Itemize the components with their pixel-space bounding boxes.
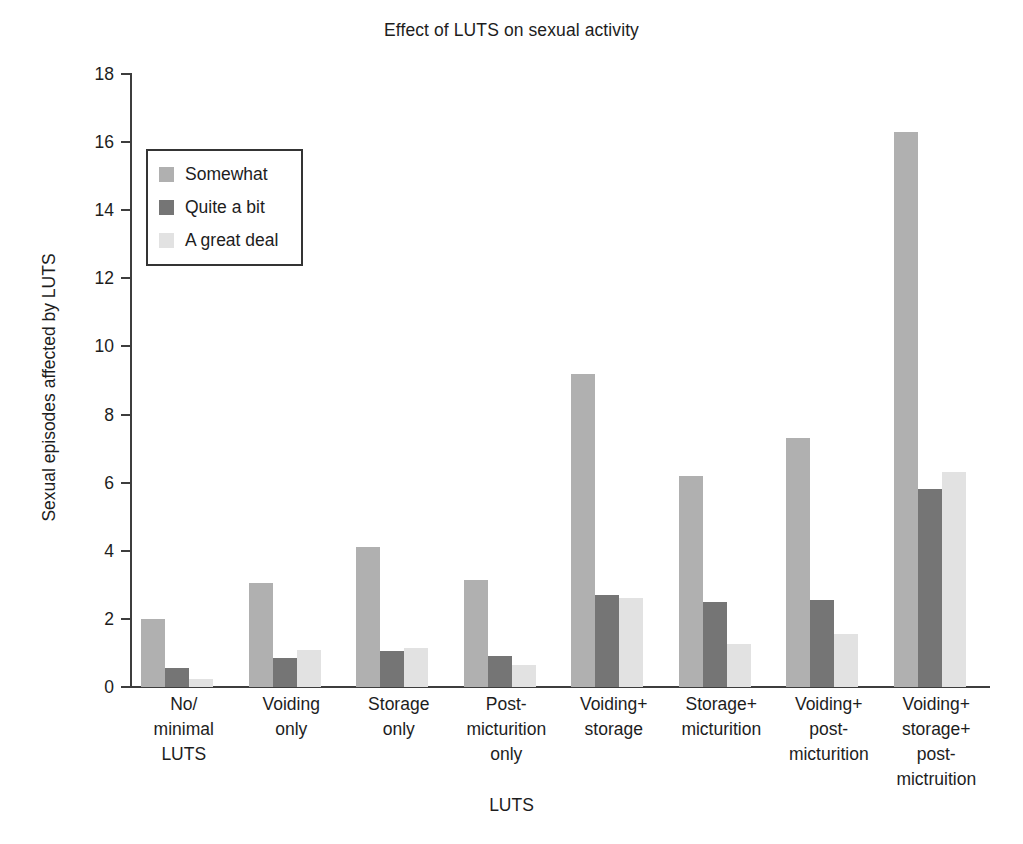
y-axis-tick-label: 2 [104, 608, 114, 629]
x-axis-tick-label-line: Voiding+ [767, 692, 891, 717]
x-axis-tick-label-line: Voiding [230, 692, 354, 717]
bar-group [894, 74, 966, 687]
x-axis-tick-label-line: only [445, 742, 569, 767]
bar [380, 651, 404, 687]
legend-item-label: Quite a bit [185, 197, 265, 218]
y-axis-tick: 6 [121, 482, 130, 484]
legend-swatch-icon [159, 200, 174, 215]
y-axis-tick-label: 4 [104, 540, 114, 561]
x-axis-tick-label: Storageonly [337, 692, 461, 742]
x-axis-tick-label: Voiding+storage+post-mictruition [875, 692, 999, 792]
bar [273, 658, 297, 687]
bar [619, 598, 643, 687]
bar-group [356, 74, 428, 687]
bar-group [679, 74, 751, 687]
bar [356, 547, 380, 687]
bar [679, 476, 703, 687]
legend-item-label: Somewhat [185, 164, 268, 185]
x-axis-tick-label-line: post- [767, 717, 891, 742]
y-axis-tick: 8 [121, 414, 130, 416]
bar-group [786, 74, 858, 687]
x-axis-tick-label: Post-micturitiononly [445, 692, 569, 767]
x-axis-tick-label: Voidingonly [230, 692, 354, 742]
x-axis-tick-label-line: only [230, 717, 354, 742]
bar [918, 489, 942, 687]
x-axis-tick-label-line: minimal [122, 717, 246, 742]
y-axis-tick: 16 [121, 141, 130, 143]
x-axis-tick-label-line: No/ [122, 692, 246, 717]
y-axis-tick-label: 10 [95, 336, 114, 357]
x-axis-tick-label-line: micturition [660, 717, 784, 742]
x-axis-title: LUTS [0, 795, 1023, 816]
bar [297, 650, 321, 687]
x-axis-tick-label-line: micturition [767, 742, 891, 767]
bar [786, 438, 810, 687]
x-axis-tick-label-line: storage [552, 717, 676, 742]
x-axis-tick-label: Voiding+storage [552, 692, 676, 742]
y-axis-tick-label: 6 [104, 472, 114, 493]
bar [571, 374, 595, 687]
y-axis-tick: 14 [121, 209, 130, 211]
bar [464, 580, 488, 687]
legend-item-label: A great deal [185, 230, 278, 251]
legend-swatch-icon [159, 233, 174, 248]
y-axis-tick: 2 [121, 618, 130, 620]
bar [249, 583, 273, 687]
y-axis-title: Sexual episodes affected by LUTS [39, 78, 60, 698]
x-axis-tick-label-line: micturition [445, 717, 569, 742]
bar [488, 656, 512, 687]
y-axis-line [130, 73, 132, 688]
bar [141, 619, 165, 687]
legend: SomewhatQuite a bitA great deal [146, 149, 303, 266]
x-axis-tick-label-line: mictruition [875, 767, 999, 792]
legend-item[interactable]: Somewhat [159, 163, 268, 185]
x-axis-tick-label-line: Storage [337, 692, 461, 717]
x-axis-tick-label-line: post- [875, 742, 999, 767]
x-axis-tick-label: No/minimalLUTS [122, 692, 246, 767]
y-axis-tick-label: 8 [104, 404, 114, 425]
chart-page: Effect of LUTS on sexual activity Sexual… [0, 0, 1023, 844]
x-axis-tick-label-line: Storage+ [660, 692, 784, 717]
legend-item[interactable]: A great deal [159, 229, 278, 251]
bar-group [571, 74, 643, 687]
x-axis-tick-label: Voiding+post-micturition [767, 692, 891, 767]
bar [189, 679, 213, 688]
x-axis-tick-label-line: LUTS [122, 742, 246, 767]
y-axis-tick: 4 [121, 550, 130, 552]
x-axis-tick-label-line: Post- [445, 692, 569, 717]
y-axis-tick-label: 18 [95, 64, 114, 85]
x-axis-tick-label-line: storage+ [875, 717, 999, 742]
y-axis-tick: 18 [121, 73, 130, 75]
y-axis-tick-label: 0 [104, 677, 114, 698]
bar [834, 634, 858, 687]
y-axis-tick-label: 12 [95, 268, 114, 289]
x-axis-tick-label-line: Voiding+ [875, 692, 999, 717]
legend-item[interactable]: Quite a bit [159, 196, 265, 218]
bar [942, 472, 966, 687]
bar [810, 600, 834, 687]
bar [727, 644, 751, 687]
x-axis-tick-label-line: only [337, 717, 461, 742]
bar [512, 665, 536, 687]
bar [404, 648, 428, 687]
y-axis-tick: 12 [121, 277, 130, 279]
y-axis-tick-label: 16 [95, 132, 114, 153]
y-axis-tick-label: 14 [95, 200, 114, 221]
chart-title: Effect of LUTS on sexual activity [0, 20, 1023, 41]
y-axis-tick: 10 [121, 345, 130, 347]
bar [165, 668, 189, 687]
bar [595, 595, 619, 687]
bar-group [464, 74, 536, 687]
bar [703, 602, 727, 687]
y-axis-tick: 0 [121, 686, 130, 688]
legend-swatch-icon [159, 167, 174, 182]
x-axis-tick-label: Storage+micturition [660, 692, 784, 742]
bar [894, 132, 918, 687]
x-axis-tick-label-line: Voiding+ [552, 692, 676, 717]
